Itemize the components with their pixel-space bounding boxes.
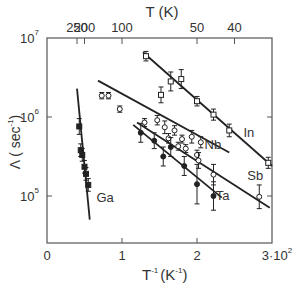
plot-frame <box>47 38 272 243</box>
marker-circle <box>257 194 262 199</box>
marker-circle <box>106 93 111 98</box>
series-label-nb: Nb <box>205 137 222 152</box>
marker-circle <box>172 128 177 133</box>
chart: 0123·1021071061052502001005040 InNbSbTaG… <box>0 0 300 288</box>
marker-square <box>159 92 164 97</box>
marker-circle <box>196 158 201 163</box>
left-title-main: Λ ( sec <box>7 126 23 169</box>
marker-circle <box>182 163 187 168</box>
svg-text:T-1(K-1): T-1(K-1) <box>142 266 187 283</box>
plot-border <box>47 38 272 243</box>
marker-circle <box>162 125 167 130</box>
marker-square <box>227 128 232 133</box>
bottom-title-exp: -1 <box>151 266 159 275</box>
bottom-title-close: ) <box>182 266 187 283</box>
marker-circle <box>189 134 194 139</box>
marker-square <box>195 99 200 104</box>
bottom-title-unit: (K <box>160 266 175 283</box>
y-tick-label: 105 <box>20 186 39 204</box>
marker-circle <box>180 137 185 142</box>
marker-circle <box>211 172 216 177</box>
marker-square <box>179 77 184 82</box>
marker-circle <box>99 93 104 98</box>
marker-square <box>266 160 271 165</box>
top-axis-title: T (K) <box>145 3 178 20</box>
marker-circle <box>195 182 200 187</box>
marker-circle <box>198 140 203 145</box>
top-tick-label: 100 <box>111 20 133 35</box>
marker-square <box>84 171 89 176</box>
marker-circle <box>138 130 143 135</box>
data-points <box>77 51 271 210</box>
marker-circle <box>176 144 181 149</box>
marker-circle <box>161 154 166 159</box>
marker-square <box>86 182 91 187</box>
top-tick-label: 50 <box>190 20 204 35</box>
marker-circle <box>168 145 173 150</box>
marker-square <box>168 79 173 84</box>
series-label-in: In <box>244 125 255 140</box>
marker-square <box>80 152 85 157</box>
bottom-title-main: T <box>142 266 151 283</box>
top-tick-label: 200 <box>74 20 96 35</box>
x-tick-label: 3·102 <box>262 246 293 263</box>
marker-circle <box>142 120 147 125</box>
x-tick-label: 1 <box>118 248 125 263</box>
marker-circle <box>183 146 188 151</box>
y-tick-label: 107 <box>20 28 39 46</box>
series-label-sb: Sb <box>247 168 263 183</box>
marker-circle <box>117 107 122 112</box>
marker-square <box>211 112 216 117</box>
x-tick-label: 0 <box>43 248 50 263</box>
marker-circle <box>155 118 160 123</box>
series-label-ga: Ga <box>97 190 115 205</box>
marker-circle <box>152 138 157 143</box>
left-title-close: ) <box>7 115 23 120</box>
marker-square <box>77 124 82 129</box>
marker-square <box>144 54 149 59</box>
series-label-ta: Ta <box>216 188 231 203</box>
bottom-axis-title: T-1(K-1) <box>142 266 187 283</box>
x-tick-label: 2 <box>193 248 200 263</box>
top-tick-label: 40 <box>227 20 241 35</box>
